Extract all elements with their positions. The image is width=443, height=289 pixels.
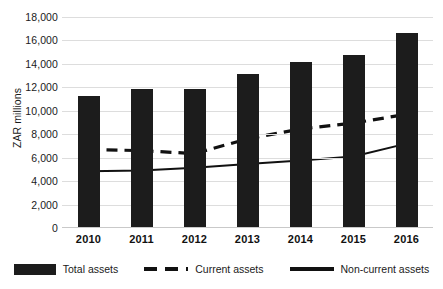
- gridline: [62, 64, 433, 65]
- y-tick-label: 0: [4, 222, 58, 234]
- x-tick-label: 2016: [394, 233, 419, 245]
- bar: [78, 96, 100, 228]
- assets-chart: ZAR millions 02,0004,0006,0008,00010,000…: [0, 0, 443, 289]
- y-tick-label: 14,000: [4, 58, 58, 70]
- y-tick-label: 16,000: [4, 34, 58, 46]
- y-tick-label: 2,000: [4, 199, 58, 211]
- x-axis-baseline: [62, 227, 433, 228]
- gridline: [62, 40, 433, 41]
- bar: [396, 33, 418, 228]
- y-tick-label: 4,000: [4, 175, 58, 187]
- bar: [131, 89, 153, 228]
- bar: [184, 89, 206, 228]
- chart-legend: Total assetsCurrent assetsNon-current as…: [0, 258, 443, 280]
- solid-line-swatch-icon: [290, 267, 334, 271]
- x-tick-label: 2012: [182, 233, 207, 245]
- legend-item[interactable]: Non-current assets: [290, 263, 430, 275]
- y-tick-label: 12,000: [4, 81, 58, 93]
- legend-item[interactable]: Current assets: [144, 263, 263, 275]
- y-tick-label: 6,000: [4, 152, 58, 164]
- plot-area: [62, 17, 433, 228]
- bar: [290, 62, 312, 228]
- y-tick-label: 18,000: [4, 11, 58, 23]
- bar: [343, 55, 365, 228]
- legend-item-label: Current assets: [195, 263, 263, 275]
- bar: [237, 74, 259, 228]
- legend-item-label: Total assets: [63, 263, 118, 275]
- filled-rect-swatch-icon: [14, 264, 56, 275]
- x-tick-label: 2015: [341, 233, 366, 245]
- y-tick-label: 8,000: [4, 128, 58, 140]
- y-tick-label: 10,000: [4, 105, 58, 117]
- x-tick-label: 2013: [235, 233, 260, 245]
- x-tick-label: 2014: [288, 233, 313, 245]
- gridline: [62, 17, 433, 18]
- legend-item-label: Non-current assets: [341, 263, 430, 275]
- y-axis-tick-labels: 02,0004,0006,0008,00010,00012,00014,0001…: [4, 0, 58, 289]
- x-tick-label: 2011: [129, 233, 154, 245]
- legend-item[interactable]: Total assets: [14, 263, 118, 275]
- x-tick-label: 2010: [76, 233, 101, 245]
